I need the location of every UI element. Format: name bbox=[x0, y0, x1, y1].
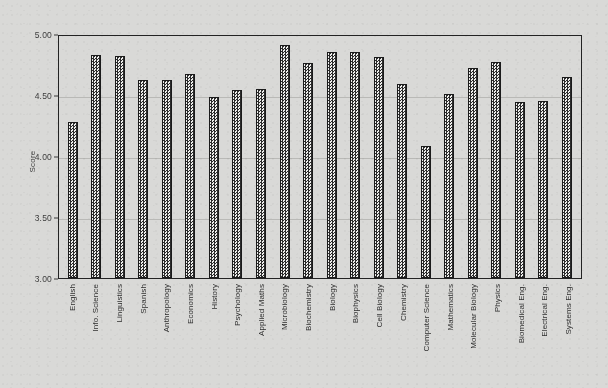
bar bbox=[91, 55, 101, 278]
x-axis-category-labels: EnglishInfo. ScienceLinguisticsSpanishAn… bbox=[58, 282, 582, 386]
bar bbox=[444, 94, 454, 278]
bar-series bbox=[59, 36, 581, 278]
bar bbox=[115, 56, 125, 278]
x-axis-category: Info. Science bbox=[90, 282, 100, 386]
x-axis-category: Cell Biology bbox=[374, 282, 384, 386]
bar bbox=[538, 101, 548, 278]
x-axis-category: Systems Eng. bbox=[563, 282, 573, 386]
bar bbox=[515, 102, 525, 278]
x-axis-category: Biomedical Eng. bbox=[516, 282, 526, 386]
x-axis-category: Anthropology bbox=[161, 282, 171, 386]
x-axis-category-label: Biochemistry bbox=[304, 284, 313, 331]
y-axis-tick-label: 3.50 bbox=[0, 213, 52, 223]
x-axis-category-label: Linguistics bbox=[115, 284, 124, 322]
x-axis-category-label: Cell Biology bbox=[374, 284, 383, 327]
bar bbox=[421, 146, 431, 278]
bar bbox=[185, 74, 195, 278]
x-axis-category: Electrical Eng. bbox=[539, 282, 549, 386]
bar bbox=[397, 84, 407, 278]
x-axis-category: Computer Science bbox=[421, 282, 431, 386]
x-axis-category: Spanish bbox=[138, 282, 148, 386]
bar bbox=[280, 45, 290, 278]
x-axis-category: History bbox=[209, 282, 219, 386]
x-axis-category-label: Biology bbox=[327, 284, 336, 311]
x-axis-category: Microbiology bbox=[279, 282, 289, 386]
x-axis-category-label: Info. Science bbox=[91, 284, 100, 332]
x-axis-category-label: Chemistry bbox=[398, 284, 407, 321]
x-axis-category: English bbox=[67, 282, 77, 386]
x-axis-category-label: Anthropology bbox=[162, 284, 171, 332]
bar bbox=[562, 77, 572, 278]
x-axis-category-label: Economics bbox=[185, 284, 194, 324]
x-axis-category-label: English bbox=[67, 284, 76, 311]
bar bbox=[209, 97, 219, 278]
x-axis-category: Mathematics bbox=[445, 282, 455, 386]
bar bbox=[374, 57, 384, 278]
bar bbox=[138, 80, 148, 278]
x-axis-category-label: Systems Eng. bbox=[563, 284, 572, 335]
x-axis-category-label: Mathematics bbox=[445, 284, 454, 330]
x-axis-category: Biophysics bbox=[350, 282, 360, 386]
x-axis-category: Physics bbox=[492, 282, 502, 386]
y-axis-tick-label: 5.00 bbox=[0, 30, 52, 40]
bar bbox=[232, 90, 242, 278]
x-axis-category: Molecular Biology bbox=[468, 282, 478, 386]
y-axis-title: Score bbox=[28, 151, 37, 173]
x-axis-category: Psychology bbox=[232, 282, 242, 386]
x-axis-category: Biology bbox=[327, 282, 337, 386]
bar bbox=[303, 63, 313, 278]
bar-chart: 5.004.504.003.503.00 Score EnglishInfo. … bbox=[0, 0, 608, 388]
bar bbox=[162, 80, 172, 278]
x-axis-category-label: Applied Maths bbox=[256, 284, 265, 336]
x-axis-category-label: Biophysics bbox=[351, 284, 360, 323]
plot-area bbox=[58, 35, 582, 279]
y-axis: 5.004.504.003.503.00 bbox=[0, 0, 54, 388]
bar bbox=[256, 89, 266, 278]
x-axis-category-label: History bbox=[209, 284, 218, 310]
x-axis-category-label: Molecular Biology bbox=[469, 284, 478, 349]
y-axis-tick-label: 4.00 bbox=[0, 152, 52, 162]
x-axis-category-label: Psychology bbox=[233, 284, 242, 326]
x-axis-category: Applied Maths bbox=[256, 282, 266, 386]
y-axis-tick-label: 4.50 bbox=[0, 91, 52, 101]
x-axis-category-label: Computer Science bbox=[422, 284, 431, 351]
bar bbox=[491, 62, 501, 278]
bar bbox=[468, 68, 478, 278]
x-axis-category-label: Spanish bbox=[138, 284, 147, 314]
x-axis-category-label: Microbiology bbox=[280, 284, 289, 330]
x-axis-category-label: Biomedical Eng. bbox=[516, 284, 525, 343]
x-axis-category: Linguistics bbox=[114, 282, 124, 386]
x-axis-category: Biochemistry bbox=[303, 282, 313, 386]
bar bbox=[327, 52, 337, 278]
x-axis-category-label: Electrical Eng. bbox=[540, 284, 549, 337]
bar bbox=[68, 122, 78, 278]
y-axis-tick-label: 3.00 bbox=[0, 274, 52, 284]
x-axis-category: Economics bbox=[185, 282, 195, 386]
x-axis-category: Chemistry bbox=[398, 282, 408, 386]
bar bbox=[350, 52, 360, 278]
x-axis-category-label: Physics bbox=[493, 284, 502, 312]
